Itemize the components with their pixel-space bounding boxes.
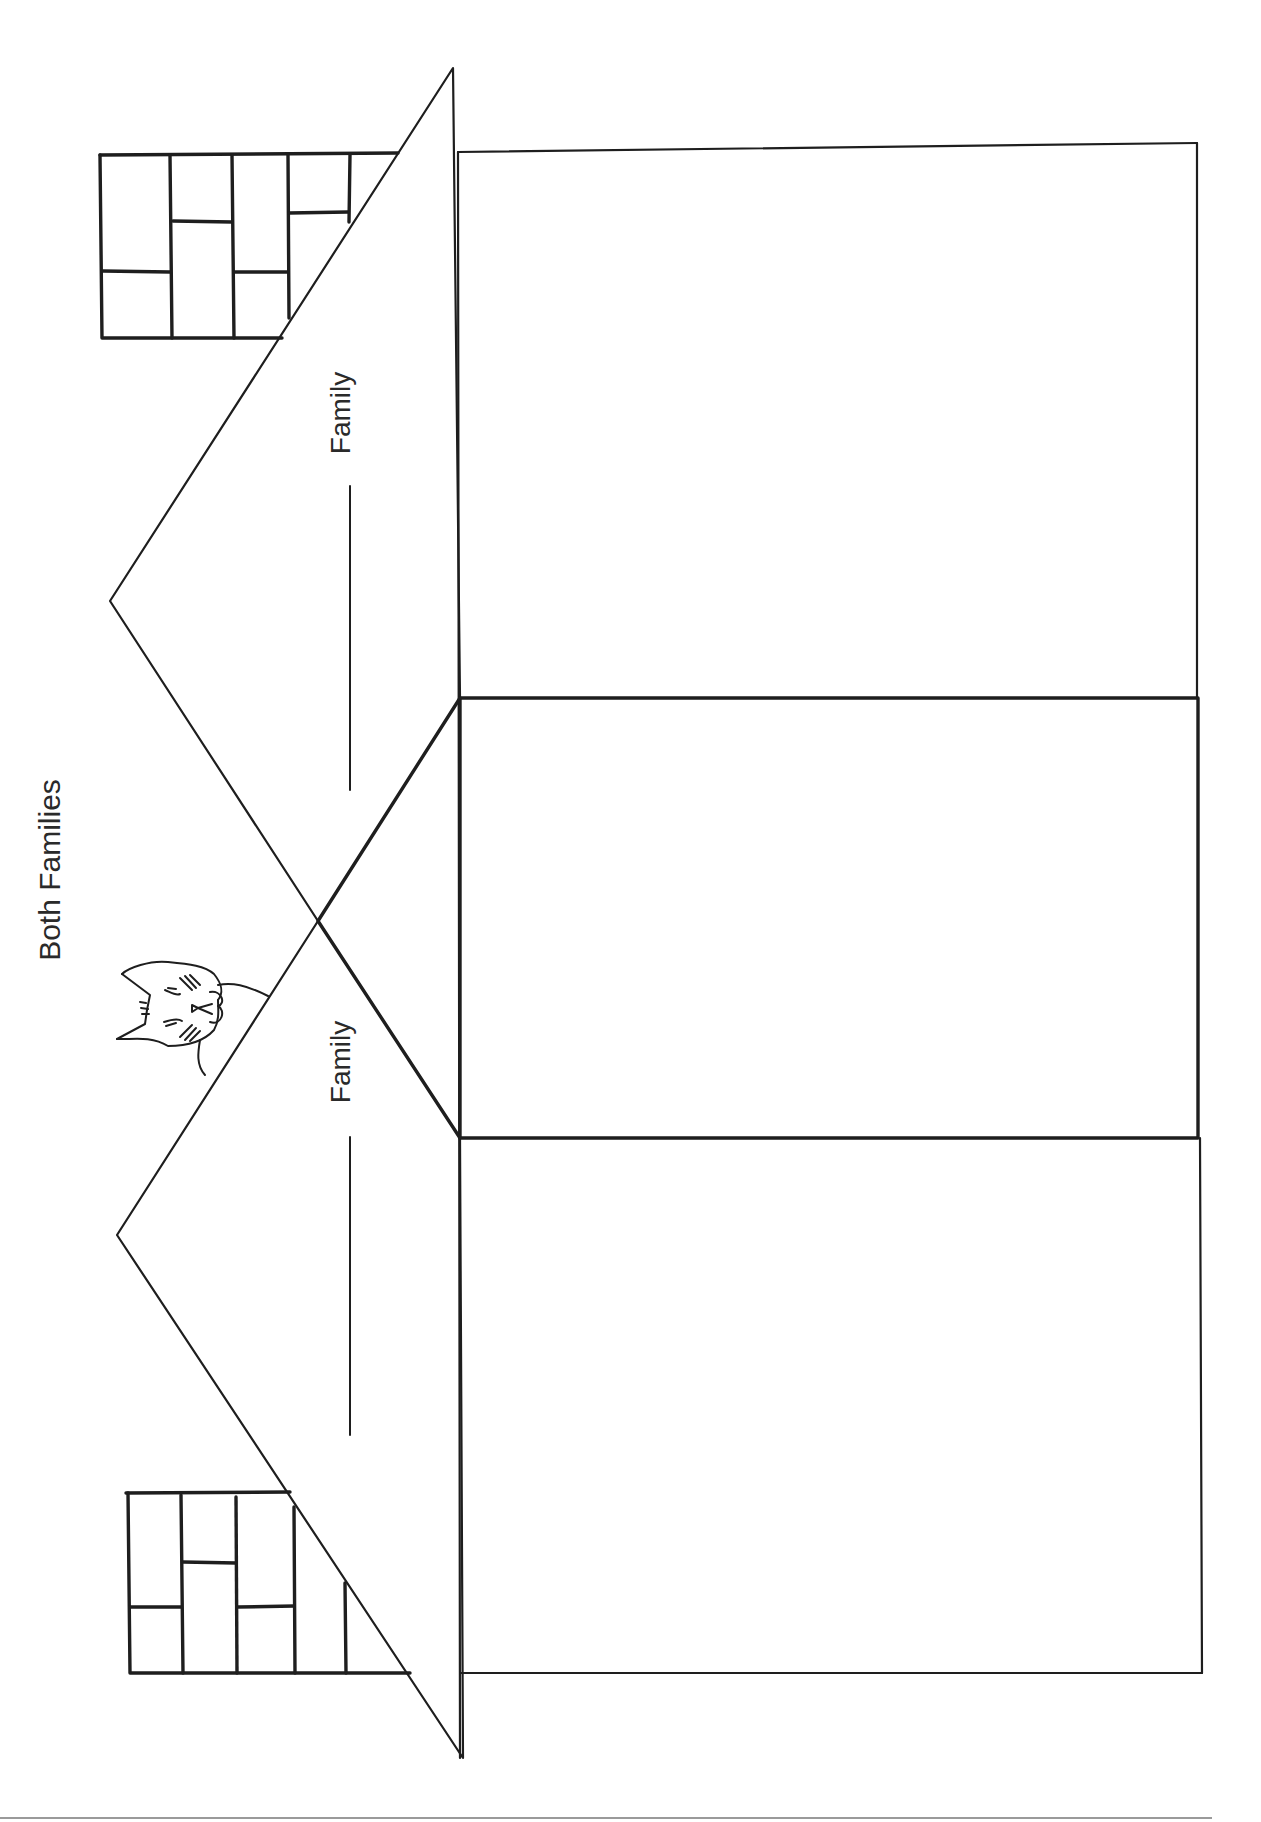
family-b-area[interactable] bbox=[461, 1139, 1200, 1672]
chimney-top-icon bbox=[100, 153, 398, 338]
family-a-area[interactable] bbox=[461, 153, 1196, 697]
cat-icon bbox=[117, 962, 268, 1075]
worksheet-title: Both Families bbox=[33, 779, 66, 961]
family-label-bottom: Family bbox=[325, 1021, 356, 1103]
venn-house-worksheet: Both Families bbox=[0, 0, 1261, 1822]
chimney-bottom-icon bbox=[126, 1492, 410, 1673]
both-families-box[interactable] bbox=[460, 698, 1198, 1138]
roof-outline bbox=[110, 68, 463, 1758]
family-label-top: Family bbox=[325, 372, 356, 454]
